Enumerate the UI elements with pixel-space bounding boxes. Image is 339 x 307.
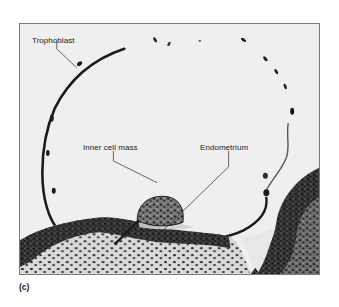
- micrograph-illustration: [20, 24, 319, 274]
- panel-label: (c): [19, 283, 29, 292]
- inner-cell-mass-leader-line: [113, 151, 157, 183]
- figure-panel-c: Trophoblast Inner cell mass Endometrium …: [0, 0, 339, 307]
- label-trophoblast: Trophoblast: [32, 37, 75, 45]
- trophoblast-leader-line: [57, 42, 77, 68]
- trophoblast-left-wall: [42, 49, 124, 233]
- blastocyst-micrograph: Trophoblast Inner cell mass Endometrium: [19, 23, 320, 275]
- label-inner-cell-mass: Inner cell mass: [83, 144, 138, 152]
- label-endometrium: Endometrium: [200, 144, 248, 152]
